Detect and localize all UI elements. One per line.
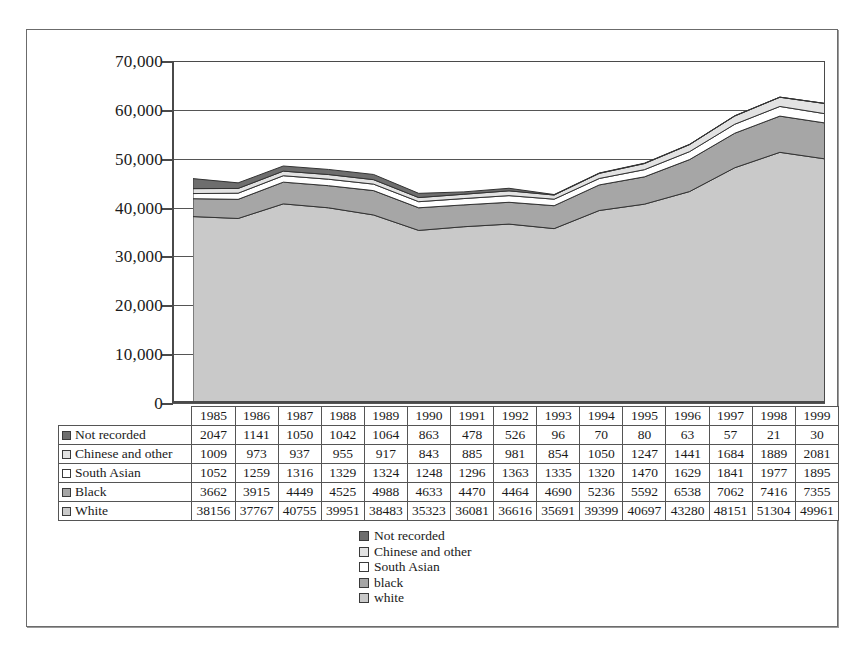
table-cell: 917 xyxy=(364,445,407,464)
gridline xyxy=(172,403,825,404)
series-name: White xyxy=(75,503,108,518)
y-axis-tick-label: 40,000 xyxy=(43,199,163,216)
chart-legend: Not recordedChinese and otherSouth Asian… xyxy=(359,528,471,606)
y-axis-tick-mark xyxy=(162,256,173,258)
table-cell: 39399 xyxy=(580,502,623,521)
table-year-header: 1996 xyxy=(666,407,709,426)
series-color-swatch-icon xyxy=(62,507,71,516)
table-cell: 1684 xyxy=(709,445,752,464)
table-cell: 1895 xyxy=(795,464,838,483)
table-cell: 96 xyxy=(537,426,580,445)
table-cell: 4449 xyxy=(278,483,321,502)
table-cell: 1050 xyxy=(580,445,623,464)
table-year-header: 1991 xyxy=(451,407,494,426)
table-cell: 48151 xyxy=(709,502,752,521)
table-cell: 1248 xyxy=(407,464,450,483)
table-cell: 4988 xyxy=(364,483,407,502)
table-cell: 49961 xyxy=(795,502,838,521)
table-cell: 1470 xyxy=(623,464,666,483)
y-axis-tick-mark xyxy=(162,159,173,161)
table-header: 1985198619871988198919901991199219931994… xyxy=(59,407,839,426)
table-cell: 478 xyxy=(451,426,494,445)
table-year-header: 1993 xyxy=(537,407,580,426)
legend-color-swatch-icon xyxy=(359,562,369,572)
y-axis-tick-mark xyxy=(162,354,173,356)
table-cell: 43280 xyxy=(666,502,709,521)
table-year-header: 1986 xyxy=(235,407,278,426)
table-cell: 973 xyxy=(235,445,278,464)
table-cell: 1296 xyxy=(451,464,494,483)
table-cell: 1052 xyxy=(192,464,235,483)
legend-item: black xyxy=(359,575,471,591)
table-cell: 1320 xyxy=(580,464,623,483)
table-cell: 40755 xyxy=(278,502,321,521)
legend-label: black xyxy=(374,575,403,590)
legend-label: South Asian xyxy=(374,559,440,574)
y-axis-tick-label: 10,000 xyxy=(43,346,163,363)
series-color-swatch-icon xyxy=(62,450,71,459)
table-cell: 1316 xyxy=(278,464,321,483)
series-name: Not recorded xyxy=(75,427,146,442)
series-color-swatch-icon xyxy=(62,431,71,440)
table-cell: 1064 xyxy=(364,426,407,445)
y-axis-tick-label: 50,000 xyxy=(43,150,163,167)
legend-label: white xyxy=(374,590,404,605)
legend-color-swatch-icon xyxy=(359,547,369,557)
table-year-header: 1995 xyxy=(623,407,666,426)
table-year-header: 1987 xyxy=(278,407,321,426)
series-name: Black xyxy=(75,484,107,499)
table-row-label: Not recorded xyxy=(59,426,192,445)
table-cell: 843 xyxy=(407,445,450,464)
series-name: South Asian xyxy=(75,465,141,480)
table-cell: 1042 xyxy=(321,426,364,445)
table-cell: 30 xyxy=(795,426,838,445)
table-row: White38156377674075539951384833532336081… xyxy=(59,502,839,521)
table-row-label: Black xyxy=(59,483,192,502)
table-cell: 1329 xyxy=(321,464,364,483)
table-cell: 38483 xyxy=(364,502,407,521)
table-cell: 863 xyxy=(407,426,450,445)
table-cell: 57 xyxy=(709,426,752,445)
table-corner-cell xyxy=(59,407,192,426)
table-cell: 526 xyxy=(494,426,537,445)
y-axis-tick-mark xyxy=(162,61,173,63)
legend-label: Not recorded xyxy=(374,528,445,543)
table-cell: 7355 xyxy=(795,483,838,502)
legend-item: Chinese and other xyxy=(359,544,471,560)
table-year-header: 1994 xyxy=(580,407,623,426)
table-cell: 7062 xyxy=(709,483,752,502)
y-axis-tick-label: 30,000 xyxy=(43,248,163,265)
table-cell: 981 xyxy=(494,445,537,464)
table-cell: 36616 xyxy=(494,502,537,521)
legend-color-swatch-icon xyxy=(359,531,369,541)
table-cell: 35323 xyxy=(407,502,450,521)
table-row-label: Chinese and other xyxy=(59,445,192,464)
table-year-header: 1985 xyxy=(192,407,235,426)
table-cell: 1363 xyxy=(494,464,537,483)
table-cell: 38156 xyxy=(192,502,235,521)
table-cell: 1247 xyxy=(623,445,666,464)
legend-label: Chinese and other xyxy=(374,544,471,559)
table-cell: 1629 xyxy=(666,464,709,483)
legend-item: Not recorded xyxy=(359,528,471,544)
y-axis-tick-mark xyxy=(162,110,173,112)
page-border: 70,00060,00050,00040,00030,00020,00010,0… xyxy=(26,29,838,627)
table-row-label: South Asian xyxy=(59,464,192,483)
table-cell: 1324 xyxy=(364,464,407,483)
table-cell: 1141 xyxy=(235,426,278,445)
table-cell: 1259 xyxy=(235,464,278,483)
y-axis-tick-mark xyxy=(162,305,173,307)
table-cell: 5236 xyxy=(580,483,623,502)
legend-color-swatch-icon xyxy=(359,593,369,603)
table-row-label: White xyxy=(59,502,192,521)
y-axis-tick-label: 20,000 xyxy=(43,297,163,314)
table-cell: 80 xyxy=(623,426,666,445)
table-cell: 4525 xyxy=(321,483,364,502)
table-cell: 955 xyxy=(321,445,364,464)
series-color-swatch-icon xyxy=(62,469,71,478)
table-cell: 5592 xyxy=(623,483,666,502)
y-axis-tick-mark xyxy=(162,403,173,405)
y-axis-tick-label: 70,000 xyxy=(43,53,163,70)
stacked-area-chart-figure: 70,00060,00050,00040,00030,00020,00010,0… xyxy=(27,30,839,628)
table-cell: 37767 xyxy=(235,502,278,521)
